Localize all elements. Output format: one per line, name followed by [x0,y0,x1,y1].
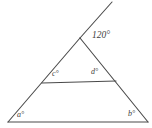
interior-angle-label-d: d° [91,68,98,76]
interior-angle-label-c: c° [52,70,59,78]
right-side-line [80,38,148,122]
mid-parallel-line [42,81,116,83]
exterior-angle-label-120: 120° [92,31,110,41]
base-angle-label-b: b° [128,110,135,118]
geometry-figure: 120° c° d° a° b° [0,0,152,128]
base-angle-label-a: a° [17,111,24,119]
